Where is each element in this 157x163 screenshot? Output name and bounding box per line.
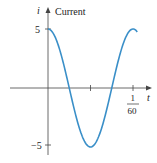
y-axis-arrow-icon	[46, 7, 51, 13]
y-tick-label-neg5: −5	[31, 140, 42, 151]
chart-title: Current	[55, 6, 86, 17]
y-axis-label: i	[37, 5, 40, 16]
x-axis-label: t	[147, 92, 150, 103]
current-chart: i Current t 5 −5 1 60	[0, 0, 157, 163]
x-tick-label-denominator: 60	[128, 106, 138, 116]
x-axis-arrow-icon	[146, 86, 152, 91]
x-tick-label-numerator: 1	[131, 93, 136, 103]
y-tick-label-5: 5	[35, 24, 40, 35]
